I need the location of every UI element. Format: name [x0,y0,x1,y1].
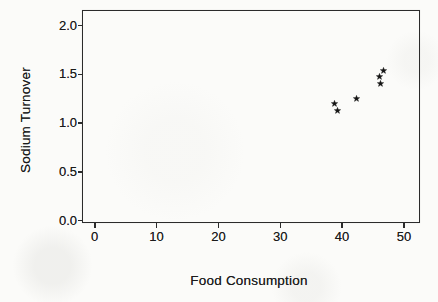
x-axis-tick [403,223,405,229]
x-axis-tick [156,223,158,229]
data-point-star-icon [333,106,342,115]
x-axis-tick [94,223,96,229]
data-point-star-icon [352,94,361,103]
data-point-star-icon [379,66,388,75]
plot-area [82,10,420,223]
y-axis-tick [78,74,84,76]
scatter-plot-figure: Sodium Turnover Food Consumption 0102030… [0,0,438,302]
x-axis-tick [218,223,220,229]
x-axis-title: Food Consumption [119,273,379,288]
x-axis-tick-label: 20 [196,230,240,244]
x-axis-tick-label: 10 [135,230,179,244]
data-point-star-icon [376,79,385,88]
y-axis-tick [78,122,84,124]
x-axis-tick-label: 0 [73,230,117,244]
y-axis-tick-label: 2.0 [43,19,77,33]
x-axis-tick-label: 30 [258,230,302,244]
y-axis-tick-label: 0.5 [43,165,77,179]
y-axis-title: Sodium Turnover [18,40,34,200]
x-axis-tick-label: 40 [320,230,364,244]
y-axis-tick [78,220,84,222]
x-axis-tick-label: 50 [382,230,426,244]
y-axis-tick-label: 1.5 [43,67,77,81]
x-axis-tick [341,223,343,229]
y-axis-tick-label: 1.0 [43,116,77,130]
x-axis-tick [280,223,282,229]
y-axis-tick [78,25,84,27]
y-axis-tick-label: 0.0 [43,214,77,228]
y-axis-tick [78,171,84,173]
